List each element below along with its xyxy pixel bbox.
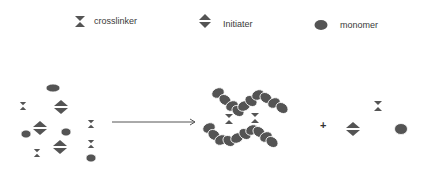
diagram-canvas: crosslinker Initiater monomer + bbox=[0, 0, 431, 175]
monomer-icon bbox=[21, 130, 31, 138]
crosslinker-icon bbox=[20, 102, 26, 110]
product-network bbox=[201, 86, 408, 150]
crosslinker-icon bbox=[34, 149, 40, 157]
hourglass-triangles-icon bbox=[75, 16, 85, 27]
initiator-icon bbox=[346, 122, 360, 136]
legend-label-monomer: monomer bbox=[340, 20, 378, 30]
crosslinker-icon bbox=[88, 140, 94, 148]
monomer-icon bbox=[86, 154, 96, 162]
crosslinker-icon bbox=[251, 113, 259, 123]
legend-label-initiater: Initiater bbox=[223, 19, 253, 29]
ellipse-icon bbox=[315, 20, 328, 30]
plus-sign: + bbox=[320, 120, 326, 131]
initiator-icon bbox=[33, 121, 47, 135]
crosslinker-icon bbox=[88, 120, 94, 128]
monomer-icon bbox=[46, 84, 60, 92]
reactant-mixture bbox=[20, 84, 96, 162]
legend-label-crosslinker: crosslinker bbox=[94, 16, 137, 26]
crosslinker-icon bbox=[225, 114, 233, 124]
monomer-icon bbox=[395, 124, 408, 135]
reaction-arrow bbox=[112, 119, 195, 125]
split-diamond-icon bbox=[199, 14, 211, 28]
crosslinker-icon bbox=[374, 101, 382, 111]
initiator-icon bbox=[54, 100, 68, 114]
monomer-icon bbox=[61, 128, 71, 136]
initiator-icon bbox=[53, 140, 67, 154]
